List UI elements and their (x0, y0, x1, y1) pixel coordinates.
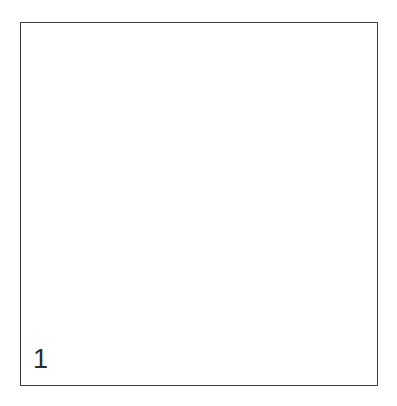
figure-container: 1 (0, 0, 397, 406)
figure-number-label: 1 (33, 346, 48, 373)
figure-frame-border (20, 22, 378, 386)
